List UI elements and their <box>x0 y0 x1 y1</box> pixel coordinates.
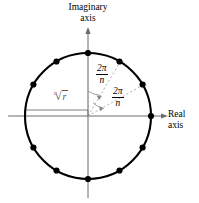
real-axis-label-line2: axis <box>168 120 183 130</box>
figure-canvas <box>0 0 199 203</box>
angle-arc-outer <box>88 91 101 95</box>
real-axis-arrowhead <box>161 113 168 118</box>
angle-label-inner-denominator: n <box>112 99 124 109</box>
root-point <box>116 58 122 64</box>
angle-label-inner-numerator: 2π <box>112 87 124 97</box>
angle-label-outer: 2π n <box>96 64 108 85</box>
radius-indicator-group <box>25 110 88 116</box>
imaginary-axis-arrowhead <box>85 27 90 34</box>
angle-arcs-group <box>88 91 104 111</box>
root-point <box>53 167 59 173</box>
root-point <box>116 167 122 173</box>
angle-label-inner: 2π n <box>112 87 124 108</box>
real-axis-label: Real axis <box>168 109 199 130</box>
radical-icon: √ <box>55 89 62 103</box>
root-point <box>85 176 91 182</box>
root-point <box>140 144 146 150</box>
real-axis-label-line1: Real <box>168 109 185 119</box>
root-point <box>30 144 36 150</box>
radius-value: r <box>62 90 68 102</box>
radius-label: n√r <box>54 89 68 104</box>
root-point <box>148 113 154 119</box>
imaginary-axis-label-line2: axis <box>80 13 95 23</box>
imaginary-axis-label: Imaginary axis <box>52 2 124 23</box>
angle-arc-outer-arrowhead <box>97 95 102 100</box>
root-point <box>53 58 59 64</box>
imaginary-axis-label-line1: Imaginary <box>68 2 107 12</box>
root-point <box>85 50 91 56</box>
angle-label-outer-denominator: n <box>96 76 108 86</box>
angle-arc-inner <box>93 103 103 108</box>
roots-of-unity-figure: Imaginary axis Real axis 2π n 2π n n√r <box>0 0 199 203</box>
angle-label-outer-numerator: 2π <box>96 64 108 74</box>
root-point <box>30 81 36 87</box>
root-point <box>140 81 146 87</box>
